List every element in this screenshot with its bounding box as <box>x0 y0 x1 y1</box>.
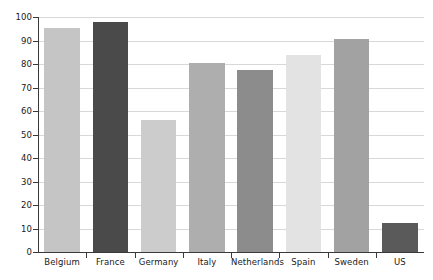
x-axis-tick-label: US <box>376 258 424 267</box>
y-axis-tick-label: 40 <box>6 154 32 163</box>
x-axis-tick-label: Italy <box>183 258 231 267</box>
y-axis-tick-label: 60 <box>6 107 32 116</box>
x-axis-tick-label: Netherlands <box>231 258 279 267</box>
bar <box>286 55 322 252</box>
bar-series <box>38 0 424 280</box>
bar <box>237 70 273 252</box>
y-axis-tick-label: 10 <box>6 225 32 234</box>
y-axis-tick-labels: 0102030405060708090100 <box>4 0 32 280</box>
y-axis-tick-label: 0 <box>6 248 32 257</box>
y-axis-tick-label: 70 <box>6 84 32 93</box>
plot-area: 0102030405060708090100 BelgiumFranceGerm… <box>0 0 433 280</box>
bar <box>141 120 177 252</box>
bar <box>44 28 80 252</box>
x-axis-tick-label: Belgium <box>38 258 86 267</box>
y-axis-tick-label: 30 <box>6 178 32 187</box>
y-axis-tick-label: 100 <box>6 13 32 22</box>
y-axis-tick-label: 80 <box>6 60 32 69</box>
x-axis-tick-label: Spain <box>279 258 327 267</box>
y-axis-tick-label: 50 <box>6 131 32 140</box>
x-axis-tick-label: France <box>86 258 134 267</box>
x-axis-tick-label: Sweden <box>328 258 376 267</box>
bar <box>382 223 418 252</box>
bar <box>93 22 129 252</box>
x-axis-tick-label: Germany <box>135 258 183 267</box>
y-axis-tick-label: 20 <box>6 201 32 210</box>
bar-chart: 0102030405060708090100 BelgiumFranceGerm… <box>0 0 433 280</box>
y-axis-tick-label: 90 <box>6 37 32 46</box>
bar <box>334 39 370 252</box>
bar <box>189 63 225 252</box>
